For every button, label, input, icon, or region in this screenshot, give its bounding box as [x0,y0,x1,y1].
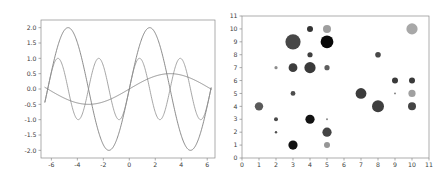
scatter-point [291,91,296,96]
scatter-point [326,118,328,120]
y-tick-label: -1.5 [24,131,36,138]
y-tick-label: 2 [234,128,238,135]
y-tick-label: 0 [234,154,238,161]
x-tick-label: 4 [179,161,183,168]
scatter-point [274,66,277,69]
scatter-point [375,52,381,58]
x-tick-label: 2 [153,161,157,168]
scatter-point [275,131,277,133]
scatter-point [321,35,334,48]
scatter-point [285,34,300,49]
y-tick-label: 0.0 [27,85,37,92]
y-tick-label: 1.0 [27,55,37,62]
figure-canvas: -6-4-20246-2.0-1.5-1.0-0.50.00.51.01.52.… [0,0,443,185]
scatter-point [406,23,417,34]
x-tick-label: 2 [274,161,278,168]
y-tick-label: 5 [234,90,238,97]
y-tick-label: 1 [234,141,238,148]
y-tick-label: 10 [230,25,238,32]
x-tick-label: 6 [342,161,346,168]
scatter-point [288,140,297,149]
y-tick-label: -1.0 [24,116,36,123]
y-tick-label: 1.5 [27,39,37,46]
x-tick-label: 7 [359,161,363,168]
x-tick-label: 9 [393,161,397,168]
scatter-point [305,115,314,124]
x-tick-label: 3 [291,161,295,168]
x-tick-label: -6 [48,161,54,168]
y-tick-label: -0.5 [24,101,36,108]
scatter-chart-panel: 0123456789101101234567891011 [221,0,443,185]
scatter-point [356,88,367,99]
scatter-chart-svg: 0123456789101101234567891011 [221,0,443,185]
x-tick-label: 11 [425,161,433,168]
scatter-point [307,26,313,32]
scatter-point [324,142,330,148]
scatter-point [409,78,415,84]
x-tick-label: 0 [127,161,131,168]
y-tick-label: 6 [234,77,238,84]
x-tick-label: 4 [308,161,312,168]
scatter-point [372,100,384,112]
scatter-point [408,90,415,97]
y-tick-label: 11 [230,12,238,19]
scatter-point [274,117,278,121]
scatter-point [324,65,329,70]
scatter-point [289,63,298,72]
y-tick-label: 2.0 [27,24,37,31]
x-tick-label: 1 [257,161,261,168]
scatter-point [307,52,312,57]
x-tick-label: 5 [325,161,329,168]
y-tick-label: -2.0 [24,147,36,154]
x-tick-label: 6 [205,161,209,168]
plot-frame [41,20,215,158]
x-tick-label: 8 [376,161,380,168]
scatter-point [304,62,315,73]
y-tick-label: 0.5 [27,70,37,77]
y-tick-label: 8 [234,51,238,58]
line-chart-svg: -6-4-20246-2.0-1.5-1.0-0.50.00.51.01.52.… [0,0,222,185]
x-tick-label: -4 [74,161,80,168]
y-tick-label: 7 [234,64,238,71]
y-tick-label: 9 [234,38,238,45]
x-tick-label: 10 [408,161,416,168]
scatter-point [394,93,396,95]
x-tick-label: -2 [100,161,106,168]
scatter-point [255,102,263,110]
y-tick-label: 3 [234,115,238,122]
line-chart-panel: -6-4-20246-2.0-1.5-1.0-0.50.00.51.01.52.… [0,0,222,185]
y-tick-label: 4 [234,103,238,110]
scatter-point [322,128,331,137]
scatter-point [408,102,416,110]
scatter-point [392,78,398,84]
x-tick-label: 0 [240,161,244,168]
scatter-point [323,25,331,33]
plot-frame [242,16,429,158]
